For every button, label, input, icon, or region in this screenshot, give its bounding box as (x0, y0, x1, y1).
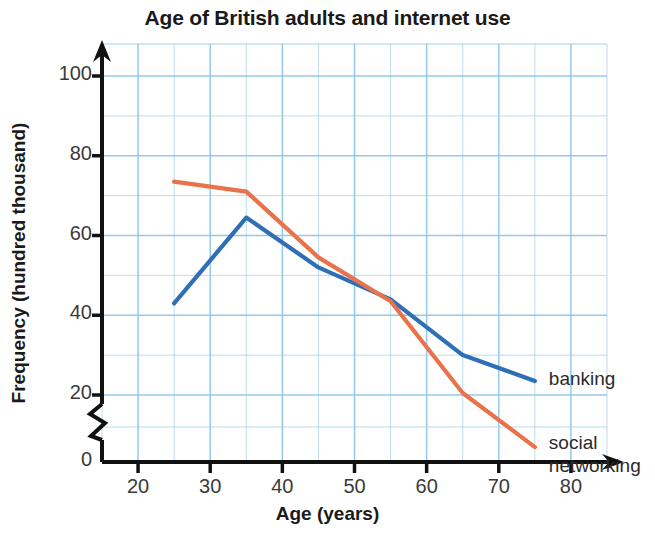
x-tick-label: 50 (325, 475, 385, 498)
x-tick-label: 40 (252, 475, 312, 498)
x-tick-label: 20 (108, 475, 168, 498)
chart-container: Age of British adults and internet use F… (0, 0, 655, 533)
y-tick-label: 0 (20, 448, 92, 471)
x-tick-label: 60 (397, 475, 457, 498)
x-tick-label: 70 (469, 475, 529, 498)
axis-lines (90, 40, 624, 470)
x-tick-label: 30 (180, 475, 240, 498)
series-label-banking: banking (549, 368, 616, 390)
grid-major (102, 44, 607, 462)
y-tick-label: 80 (20, 142, 92, 165)
y-tick-label: 40 (20, 301, 92, 324)
series-label-social-line2: networking (549, 455, 641, 477)
y-tick-label: 100 (20, 62, 92, 85)
series-label-social-line1: social (549, 432, 598, 454)
y-tick-label: 20 (20, 381, 92, 404)
x-tick-label: 80 (541, 475, 601, 498)
y-tick-label: 60 (20, 222, 92, 245)
